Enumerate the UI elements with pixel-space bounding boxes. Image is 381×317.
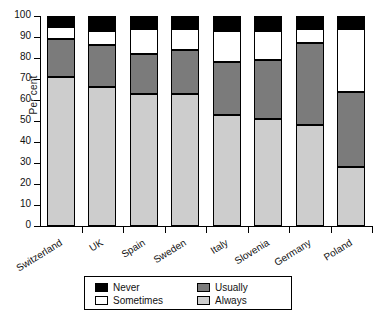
legend-swatch-never [95,283,108,292]
legend-label: Sometimes [113,295,163,306]
legend-item-never[interactable]: Never [95,282,140,293]
segment-never [296,16,324,29]
y-tick-label: 80 [20,51,31,62]
bar-uk [88,16,116,226]
legend-item-sometimes[interactable]: Sometimes [95,295,163,306]
plot-area: 0102030405060708090100 [40,16,372,226]
y-tick-20: 20 [34,184,40,185]
bar-poland [337,16,365,226]
bar-germany [296,16,324,226]
x-tick [123,227,124,233]
segment-never [213,16,241,31]
bar-switzerland [47,16,75,226]
y-tick-label: 70 [20,72,31,83]
legend-item-usually[interactable]: Usually [197,282,248,293]
y-tick-100: 100 [34,16,40,17]
segment-always [213,115,241,226]
x-tick [165,227,166,233]
segment-always [254,119,282,226]
segment-never [130,16,158,29]
segment-sometimes [171,29,199,50]
y-tick-label: 90 [20,30,31,41]
segment-sometimes [296,29,324,44]
x-tick [248,227,249,233]
segment-always [296,125,324,226]
segment-never [337,16,365,29]
y-tick-10: 10 [34,205,40,206]
segment-sometimes [88,31,116,46]
y-tick-label: 20 [20,177,31,188]
legend-label: Always [215,295,247,306]
segment-sometimes [254,31,282,60]
bar-spain [130,16,158,226]
legend-swatch-usually [197,283,210,292]
segment-usually [254,60,282,119]
y-tick-label: 40 [20,135,31,146]
segment-sometimes [47,27,75,40]
segment-usually [296,43,324,125]
x-tick [289,227,290,233]
segment-never [254,16,282,31]
bar-italy [213,16,241,226]
segment-always [171,94,199,226]
legend-swatch-always [197,296,210,305]
x-tick [372,227,373,233]
segment-always [337,167,365,226]
y-tick-60: 60 [34,100,40,101]
y-tick-0: 0 [34,226,40,227]
y-tick-label: 10 [20,198,31,209]
stacked-bar-chart: Per cent 0102030405060708090100 Switzerl… [0,0,381,317]
x-tick [206,227,207,233]
legend-label: Never [113,282,140,293]
y-tick-label: 50 [20,114,31,125]
y-tick-label: 100 [14,9,31,20]
segment-sometimes [213,31,241,63]
segment-sometimes [130,29,158,54]
segment-never [47,16,75,27]
y-tick-40: 40 [34,142,40,143]
bar-sweden [171,16,199,226]
y-tick-50: 50 [34,121,40,122]
segment-usually [88,45,116,87]
segment-always [88,87,116,226]
segment-usually [171,50,199,94]
y-tick-70: 70 [34,79,40,80]
segment-always [47,77,75,226]
legend-swatch-sometimes [95,296,108,305]
segment-usually [130,54,158,94]
y-tick-label: 30 [20,156,31,167]
segment-usually [337,92,365,168]
segment-always [130,94,158,226]
segment-never [88,16,116,31]
y-axis-line [40,16,41,227]
y-tick-80: 80 [34,58,40,59]
segment-usually [213,62,241,115]
legend: NeverSometimesUsuallyAlways [84,276,292,310]
bar-slovenia [254,16,282,226]
x-tick [82,227,83,233]
y-tick-30: 30 [34,163,40,164]
y-tick-label: 0 [25,219,31,230]
y-tick-90: 90 [34,37,40,38]
segment-never [171,16,199,29]
x-tick [331,227,332,233]
legend-item-always[interactable]: Always [197,295,247,306]
segment-usually [47,39,75,77]
y-tick-label: 60 [20,93,31,104]
segment-sometimes [337,29,365,92]
legend-label: Usually [215,282,248,293]
